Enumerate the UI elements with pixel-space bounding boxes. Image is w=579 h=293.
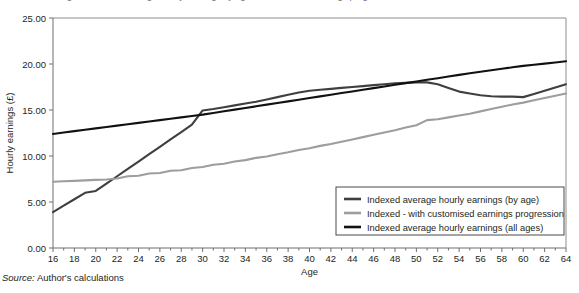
x-axis-tick-label: 40 (304, 253, 315, 264)
source-label: Source: (2, 272, 35, 283)
x-axis-tick-label: 30 (197, 253, 208, 264)
legend-label-3: Indexed average hourly earnings (all age… (367, 223, 543, 233)
x-axis-tick-label: 16 (48, 253, 59, 264)
y-axis-tick-label: 25.00 (22, 13, 46, 24)
x-axis-tick-label: 42 (326, 253, 337, 264)
source-note: Source: Author's calculations (2, 272, 124, 283)
legend-label-1: Indexed average hourly earnings (by age) (367, 195, 539, 205)
series-line-3 (53, 61, 566, 134)
x-axis-tick-label: 62 (539, 253, 550, 264)
x-axis-title: Age (301, 266, 318, 277)
x-axis-tick-label: 22 (112, 253, 123, 264)
x-axis-tick-label: 46 (368, 253, 379, 264)
x-axis-tick-label: 48 (390, 253, 401, 264)
figure-container: Figure: Indexed average hourly earnings … (0, 0, 579, 293)
x-axis-tick-label: 34 (240, 253, 251, 264)
x-axis-tick-label: 32 (219, 253, 230, 264)
x-axis-tick-label: 58 (497, 253, 508, 264)
line-chart: 0.005.0010.0015.0020.0025.00Hourly earni… (0, 0, 579, 293)
x-axis-tick-label: 38 (283, 253, 294, 264)
y-axis-tick-label: 15.00 (22, 105, 46, 116)
y-axis-tick-label: 5.00 (28, 197, 47, 208)
x-axis-tick-label: 60 (518, 253, 529, 264)
x-axis-tick-label: 50 (411, 253, 422, 264)
x-axis-tick-label: 28 (176, 253, 187, 264)
y-axis-tick-label: 20.00 (22, 59, 46, 70)
x-axis-tick-label: 54 (454, 253, 465, 264)
y-axis-title: Hourly earnings (£) (4, 93, 15, 174)
x-axis-tick-label: 36 (261, 253, 272, 264)
x-axis-tick-label: 56 (475, 253, 486, 264)
x-axis-tick-label: 18 (69, 253, 80, 264)
y-axis-tick-label: 0.00 (28, 243, 47, 254)
source-text: Author's calculations (37, 272, 124, 283)
x-axis-tick-label: 26 (155, 253, 166, 264)
x-axis-tick-label: 64 (561, 253, 572, 264)
x-axis-tick-label: 44 (347, 253, 358, 264)
y-axis-tick-label: 10.00 (22, 151, 46, 162)
legend-label-2: Indexed - with customised earnings progr… (367, 209, 564, 219)
x-axis-tick-label: 52 (432, 253, 443, 264)
x-axis-tick-label: 20 (90, 253, 101, 264)
x-axis-tick-label: 24 (133, 253, 144, 264)
